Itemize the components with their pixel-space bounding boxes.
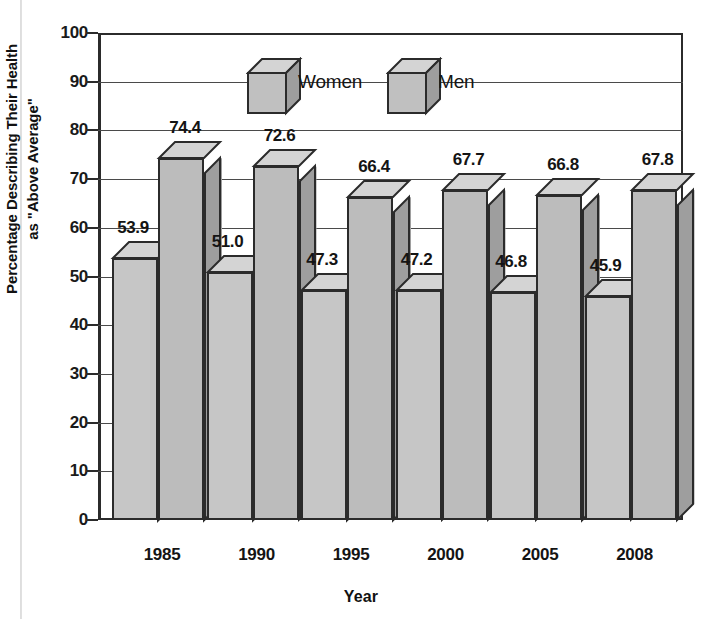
bar-front-face	[158, 158, 204, 520]
bar-front-face	[112, 258, 158, 520]
legend-swatch-men	[386, 57, 446, 119]
y-axis-tick	[86, 470, 98, 472]
x-axis-tick-label-1990: 1990	[238, 545, 275, 565]
bar-front-face	[207, 272, 253, 520]
bar-men-1990	[253, 166, 299, 520]
bar-front-face	[585, 296, 631, 520]
y-axis-tick	[86, 178, 98, 180]
y-axis-title-wrap: Percentage Describing Their Health as "A…	[0, 0, 98, 520]
bar-men-1995	[347, 197, 393, 520]
y-axis-tick	[86, 519, 98, 521]
bar-women-2000	[396, 290, 442, 520]
value-label-men-1985: 74.4	[169, 118, 201, 138]
x-axis-tick-label-2000: 2000	[427, 545, 464, 565]
legend-label-men: Men	[438, 71, 474, 93]
chart-screenshot: 1009080706050403020100 Percentage Descri…	[0, 0, 722, 619]
bar-men-2008	[631, 190, 677, 520]
y-axis-title-line-1: Percentage Describing Their Health	[1, 0, 22, 339]
y-axis-tick	[86, 81, 98, 83]
bar-men-2000	[442, 190, 488, 520]
bar-front-face	[347, 197, 393, 520]
value-label-women-1985: 53.9	[117, 218, 149, 238]
value-label-women-2000: 47.2	[401, 250, 433, 270]
bar-front-face	[253, 166, 299, 520]
x-axis-tick-label-2005: 2005	[522, 545, 559, 565]
bar-women-1985	[112, 258, 158, 520]
value-label-men-2000: 67.7	[453, 150, 485, 170]
bar-front-face	[396, 290, 442, 520]
bar-women-2008	[585, 296, 631, 520]
value-label-men-2008: 67.8	[642, 150, 674, 170]
x-axis-tick-label-2008: 2008	[616, 545, 653, 565]
x-axis-tick-label-1985: 1985	[144, 545, 181, 565]
x-axis-title: Year	[0, 588, 722, 606]
bar-men-1985	[158, 158, 204, 520]
bar-front-face	[490, 292, 536, 520]
y-axis-tick	[86, 129, 98, 131]
y-axis-tick	[86, 32, 98, 34]
value-label-men-1995: 66.4	[358, 157, 390, 177]
bar-front-face	[536, 195, 582, 520]
y-axis-tick	[86, 276, 98, 278]
bar-side-outline	[677, 189, 696, 521]
y-axis-tick	[86, 422, 98, 424]
bar-women-1990	[207, 272, 253, 520]
value-label-women-2005: 46.8	[495, 252, 527, 272]
value-label-men-1990: 72.6	[264, 126, 296, 146]
bar-women-1995	[301, 290, 347, 520]
legend-swatch-women	[246, 57, 306, 119]
bar-front-face	[301, 290, 347, 520]
y-axis-tick	[86, 373, 98, 375]
x-axis-tick-label-1995: 1995	[333, 545, 370, 565]
bar-men-2005	[536, 195, 582, 520]
bar-women-2005	[490, 292, 536, 520]
legend-label-women: Women	[298, 71, 362, 93]
y-axis-title-line-2: as "Above Average"	[22, 0, 43, 339]
value-label-men-2005: 66.8	[547, 155, 579, 175]
y-axis-tick	[86, 227, 98, 229]
y-axis-title: Percentage Describing Their Health as "A…	[1, 0, 43, 339]
bar-front-face	[442, 190, 488, 520]
value-label-women-2008: 45.9	[590, 256, 622, 276]
y-axis-tick	[86, 324, 98, 326]
value-label-women-1995: 47.3	[306, 250, 338, 270]
plot-area: 53.974.451.072.647.366.447.267.746.866.8…	[98, 33, 683, 520]
value-label-women-1990: 51.0	[212, 232, 244, 252]
bar-front-face	[631, 190, 677, 520]
